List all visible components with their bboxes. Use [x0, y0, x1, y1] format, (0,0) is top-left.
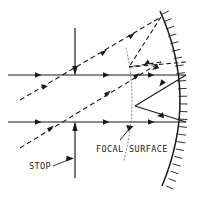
ray-arrowhead — [100, 50, 107, 57]
ray-arrowhead — [103, 119, 110, 124]
optical-ray-diagram: STOP FOCAL SURFACE — [0, 0, 208, 199]
stop-label: STOP — [29, 161, 51, 171]
focal-surface-label: FOCAL SURFACE — [96, 144, 168, 154]
ray-arrowhead — [159, 79, 166, 86]
ray-arrowhead — [103, 72, 110, 77]
stop-arrowhead-down — [72, 66, 77, 76]
optical-axis-upper — [8, 72, 186, 77]
reflected-solid-rays — [135, 75, 186, 122]
mirror-arc — [160, 11, 188, 189]
ray-arrowhead — [47, 126, 54, 133]
mirror-hatching — [161, 11, 187, 189]
ray-arrowhead — [35, 119, 42, 124]
stop-upper — [72, 28, 77, 76]
stop-leader-line — [53, 156, 74, 166]
ray-arrowhead — [148, 72, 155, 77]
diagram-canvas: STOP FOCAL SURFACE — [0, 0, 208, 199]
ray-arrowhead — [40, 84, 48, 91]
reflected-dashed-rays — [129, 17, 186, 70]
focal-surface-leader-line — [120, 125, 134, 140]
oblique-ray-upper — [20, 17, 161, 100]
stop-lower — [72, 122, 77, 179]
ray-arrowhead — [128, 33, 135, 40]
ray-arrowhead — [148, 119, 155, 124]
ray-arrowhead — [35, 72, 42, 77]
stop-arrowhead-up — [72, 122, 77, 132]
leader-arrowhead — [66, 156, 74, 162]
optical-axis-lower — [8, 119, 186, 124]
